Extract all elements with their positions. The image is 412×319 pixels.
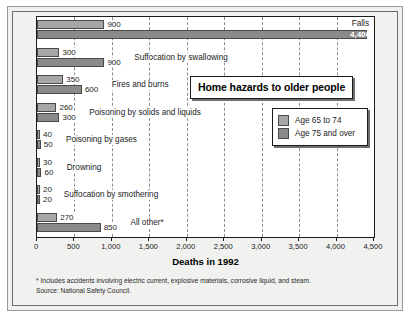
category-label: Fires and burns (110, 80, 171, 90)
x-tick-label: 0 (34, 242, 38, 251)
bar-s1 (37, 130, 40, 139)
x-tick-label: 4,500 (363, 242, 382, 251)
chart-row: 270850All other* (37, 213, 374, 238)
bar-value-label: 60 (43, 168, 54, 177)
footnotes: * Includes accidents involving electric … (36, 276, 376, 295)
category-label: Suffocation by smothering (62, 190, 161, 200)
category-label: All other* (128, 218, 165, 228)
bar-s1 (37, 158, 40, 167)
chart-legend: Age 65 to 74Age 75 and over (272, 108, 368, 146)
bar-value-label: 260 (58, 103, 73, 112)
x-tick (111, 238, 112, 241)
x-tick (186, 238, 187, 241)
x-tick-label: 2,500 (214, 242, 233, 251)
chart-row: 2020Suffocation by smothering (37, 185, 374, 210)
bar-value-label: 20 (42, 195, 53, 204)
category-label: Falls (350, 19, 371, 29)
bar-value-label: 300 (61, 48, 76, 57)
bar-s2 (37, 58, 104, 67)
x-tick (36, 238, 37, 241)
legend-item: Age 65 to 74 (278, 115, 362, 126)
x-tick-label: 3,500 (289, 242, 308, 251)
bar-s1 (37, 75, 63, 84)
x-tick-label: 2,000 (176, 242, 195, 251)
category-label: Suffocation by swallowing (132, 53, 230, 63)
chart-screenshot: 9004,400Falls300900Suffocation by swallo… (0, 0, 412, 319)
chart-row: 9004,400Falls (37, 20, 374, 45)
x-tick-label: 3,000 (251, 242, 270, 251)
x-tick-label: 1,500 (139, 242, 158, 251)
x-tick (261, 238, 262, 241)
x-tick (336, 238, 337, 241)
bar-value-label: 850 (103, 223, 118, 232)
category-label: Poisoning by gases (64, 135, 139, 145)
bar-s2 (37, 85, 82, 94)
bar-s2 (37, 30, 367, 39)
legend-swatch (278, 128, 289, 139)
footnote-source: Source: National Safety Council. (36, 286, 376, 296)
bar-value-label: 900 (106, 58, 121, 67)
bar-value-label: 4,400 (349, 30, 371, 39)
x-axis: 05001,0001,5002,0002,5003,0003,5004,0004… (36, 238, 375, 254)
x-tick (298, 238, 299, 241)
bar-s2 (37, 113, 59, 122)
bar-s2 (37, 168, 41, 177)
x-tick (148, 238, 149, 241)
bar-s1 (37, 48, 59, 57)
bar-s2 (37, 223, 101, 232)
legend-item: Age 75 and over (278, 128, 362, 139)
bar-value-label: 50 (43, 140, 54, 149)
legend-label: Age 75 and over (295, 129, 355, 138)
bar-s2 (37, 140, 41, 149)
x-tick (73, 238, 74, 241)
bar-s1 (37, 213, 57, 222)
x-tick-label: 500 (67, 242, 80, 251)
x-tick-label: 4,000 (326, 242, 345, 251)
bar-value-label: 30 (42, 158, 53, 167)
bar-value-label: 600 (84, 85, 99, 94)
legend-label: Age 65 to 74 (295, 116, 341, 125)
bar-value-label: 20 (42, 185, 53, 194)
x-tick (373, 238, 374, 241)
bar-s2 (37, 195, 40, 204)
bar-value-label: 270 (59, 213, 74, 222)
category-label: Drowning (65, 163, 104, 173)
chart-title: Home hazards to older people (190, 76, 353, 99)
bar-value-label: 900 (106, 20, 121, 29)
footnote-asterisk: * Includes accidents involving electric … (36, 276, 376, 286)
bar-value-label: 350 (65, 75, 80, 84)
chart-row: 300900Suffocation by swallowing (37, 48, 374, 73)
bar-value-label: 300 (61, 113, 76, 122)
x-axis-title: Deaths in 1992 (36, 256, 375, 267)
bar-value-label: 40 (42, 130, 53, 139)
chart-row: 3060Drowning (37, 158, 374, 183)
bar-s1 (37, 103, 56, 112)
x-tick-label: 1,000 (101, 242, 120, 251)
bar-s1 (37, 185, 40, 194)
legend-swatch (278, 115, 289, 126)
category-label: Poisoning by solids and liquids (87, 108, 203, 118)
x-tick (223, 238, 224, 241)
bar-s1 (37, 20, 104, 29)
